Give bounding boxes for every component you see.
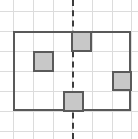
symmetry-figure — [0, 0, 138, 139]
grid-line-vertical-2 — [53, 0, 54, 139]
grid-line-vertical-4 — [92, 0, 93, 139]
grid-line-vertical-5 — [112, 0, 113, 139]
grid-line-horizontal-0 — [0, 11, 138, 12]
grid-line-horizontal-4 — [0, 91, 138, 92]
grid-line-horizontal-3 — [0, 71, 138, 72]
grid-line-horizontal-2 — [0, 51, 138, 52]
grid-line-vertical-1 — [33, 0, 34, 139]
grid-line-horizontal-1 — [0, 31, 138, 32]
background-grid — [0, 0, 138, 139]
grid-line-vertical-6 — [131, 0, 132, 139]
grid-line-horizontal-6 — [0, 131, 138, 132]
grid-line-vertical-0 — [13, 0, 14, 139]
grid-line-vertical-3 — [72, 0, 73, 139]
grid-line-horizontal-5 — [0, 111, 138, 112]
